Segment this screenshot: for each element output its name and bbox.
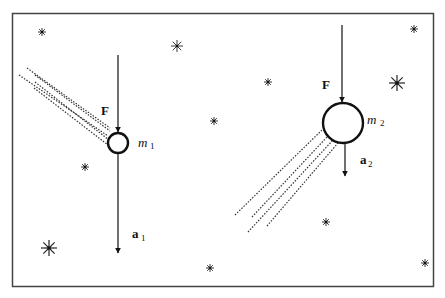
- accel-label-a2: a: [360, 152, 367, 167]
- star-icon: [389, 75, 405, 91]
- mass-circle-m2: [323, 103, 363, 143]
- star-icon: [41, 240, 57, 256]
- diagram-canvas: F m 1 a 1 F m 2 a 2: [0, 0, 445, 298]
- body-m2: F m 2 a 2: [322, 25, 385, 176]
- star-icon: [421, 259, 429, 267]
- mass-label-m1: m: [138, 135, 147, 150]
- star-icon: [171, 40, 183, 52]
- force-label-m2: F: [322, 77, 330, 92]
- diagram-frame: [13, 14, 434, 287]
- body-m1: F m 1 a 1: [101, 55, 155, 253]
- star-icon: [206, 264, 214, 272]
- accel-label-a1: a: [132, 226, 139, 241]
- star-icon: [210, 117, 218, 125]
- mass-label-m2: m: [367, 112, 376, 127]
- star-field: [38, 25, 429, 272]
- mass-circle-m1: [108, 133, 128, 153]
- star-icon: [322, 218, 330, 226]
- motion-trail-m2: [235, 129, 338, 232]
- mass-sub-m1: 1: [150, 141, 155, 151]
- accel-sub-a2: 2: [368, 159, 373, 169]
- star-icon: [410, 25, 418, 33]
- mass-sub-m2: 2: [380, 118, 385, 128]
- motion-trail-m1: [19, 68, 110, 145]
- star-icon: [81, 163, 89, 171]
- star-icon: [264, 78, 272, 86]
- force-label-m1: F: [101, 103, 109, 118]
- star-icon: [38, 28, 46, 36]
- accel-sub-a1: 1: [141, 233, 146, 243]
